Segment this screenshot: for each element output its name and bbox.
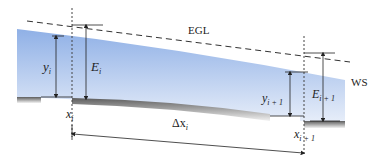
E-i-label: Ei [91,60,101,73]
x-ip1-label: xi + 1 [294,128,315,140]
y-ip1-label: yi + 1 [262,92,283,104]
y-i-label: yi [43,60,51,73]
open-channel-energy-diagram: EGL WS yi Ei xi yi + 1 Ei + 1 xi + 1 Δxi [0,0,382,165]
egl-label: EGL [188,25,209,36]
x-i-label: xi [66,108,74,120]
delta-x-arrow [73,134,303,153]
delta-x-label: Δxi [172,117,188,129]
E-ip1-label: Ei + 1 [312,88,335,100]
channel-bed-left [17,97,41,103]
ws-label: WS [351,77,368,88]
channel-bed-right [304,121,345,128]
